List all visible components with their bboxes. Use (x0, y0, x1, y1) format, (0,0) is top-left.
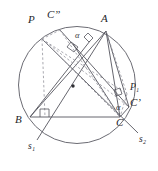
right-angle-markers (40, 33, 122, 117)
label-line-s1: s₁ (28, 142, 35, 152)
label-point-a: A (101, 13, 108, 24)
dashed-p-to-cpp (42, 30, 60, 39)
right-angle-upper-center (67, 42, 78, 52)
label-point-b: B (15, 114, 22, 125)
label-angle-alpha-upper: α (75, 31, 79, 40)
label-point-c-prime: C’ (130, 97, 141, 108)
triangle-abc (30, 31, 120, 117)
segment-b-to-upper-right (30, 41, 90, 117)
dashed-p-vertical (42, 39, 45, 117)
label-point-c: C (116, 117, 123, 128)
label-angle-alpha-lower: α (116, 103, 120, 112)
dashed-p-to-cprime (42, 39, 129, 107)
circumcenter-dot (71, 84, 74, 87)
geometry-figure: A B C P C” C’ P₁ s₁ s₂ α α (0, 0, 158, 171)
label-point-p1: P₁ (130, 83, 139, 93)
label-point-p: P (28, 14, 35, 25)
label-line-s2: s₂ (139, 135, 146, 145)
right-angle-near-a (84, 33, 93, 42)
label-point-c-double-prime: C” (47, 9, 60, 20)
